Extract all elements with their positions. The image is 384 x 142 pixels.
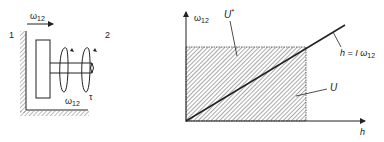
y-axis-label: ω12 — [194, 13, 209, 24]
rotation-arrowhead-icon — [70, 48, 74, 52]
flywheel-disk — [36, 40, 50, 98]
coenergy-label: U* — [224, 8, 234, 20]
constitutive-line-label: h = I ω12 — [340, 48, 375, 59]
diagram-canvas: ω12 1 2 ω12 τ ω12 h U* U h = I ω12 — [0, 0, 384, 142]
x-axis-label: h — [360, 127, 365, 137]
wall-hatching — [20, 31, 26, 113]
torque-arrow-icon — [82, 48, 90, 92]
rotation-omega-label: ω12 — [65, 96, 80, 107]
rotation-arrow-icon — [60, 48, 68, 92]
top-omega-label: ω12 — [30, 11, 45, 22]
body-2-label: 2 — [105, 30, 110, 40]
energy-label: U — [330, 82, 338, 93]
torque-arrowhead-icon — [93, 48, 97, 52]
flywheel-diagram: ω12 1 2 ω12 τ — [9, 11, 110, 116]
shaft-end — [91, 63, 94, 73]
body-1-label: 1 — [9, 30, 14, 40]
energy-coenergy-plot: ω12 h U* U h = I ω12 — [186, 8, 375, 137]
floor-hatching — [20, 111, 89, 116]
line-label-leader — [333, 32, 341, 47]
torque-label: τ — [89, 92, 93, 102]
